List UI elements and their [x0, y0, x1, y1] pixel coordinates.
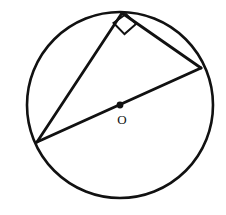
circle-triangle-diagram: O	[0, 0, 226, 215]
center-label: O	[117, 112, 126, 127]
right-angle-marker-icon	[114, 14, 136, 34]
geometry-figure: O	[0, 0, 226, 215]
center-point-dot	[117, 102, 124, 109]
